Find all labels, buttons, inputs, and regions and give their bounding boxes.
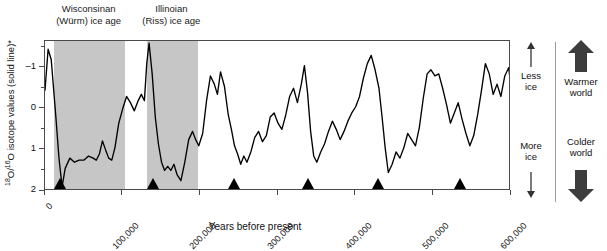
- era-label-illinoian: Illinoian (Riss) ice age: [111, 3, 231, 27]
- y-tick-minor: [41, 87, 45, 88]
- x-tick: [432, 190, 433, 195]
- glacial-maximum-marker: [372, 178, 384, 189]
- warmer-world-line1: Warmer: [551, 76, 607, 87]
- y-tick-major: [39, 66, 44, 67]
- more-ice-line2: ice: [512, 151, 550, 162]
- era-label-line2: (Riss) ice age: [111, 15, 231, 27]
- glacial-maximum-marker: [302, 178, 314, 189]
- less-ice-label: Less ice: [512, 70, 550, 92]
- y-tick-minor: [41, 46, 45, 47]
- y-axis-label-mid: O/: [5, 168, 16, 178]
- colder-world-line2: world: [551, 147, 607, 158]
- colder-world-label: Colder world: [551, 136, 607, 158]
- x-tick: [354, 190, 355, 195]
- y-tick-label: 2: [14, 184, 36, 194]
- y-axis-label-sup-16: 16: [4, 160, 11, 168]
- annotation-divider: [555, 42, 556, 202]
- x-tick-label: 0: [44, 201, 55, 212]
- glacial-maximum-marker: [228, 178, 240, 189]
- y-tick-minor: [41, 128, 45, 129]
- y-tick-major: [39, 107, 44, 108]
- glacial-maximum-marker: [454, 178, 466, 189]
- warmer-world-line2: world: [551, 87, 607, 98]
- x-tick: [277, 190, 278, 195]
- plot-area: [44, 40, 510, 190]
- glacial-maximum-marker: [54, 178, 66, 189]
- glacial-maximum-marker: [147, 178, 159, 189]
- less-ice-line1: Less: [512, 70, 550, 81]
- more-ice-arrow-icon: [524, 172, 538, 198]
- y-tick-minor: [41, 169, 45, 170]
- x-tick: [510, 190, 511, 195]
- y-tick-label: 1: [14, 143, 36, 153]
- y-tick-label: –1: [14, 61, 36, 71]
- era-label-line1: Illinoian: [111, 3, 231, 15]
- x-tick: [199, 190, 200, 195]
- colder-world-arrow-icon: [568, 170, 594, 202]
- x-axis-label: Years before present: [0, 221, 510, 232]
- y-tick-major: [39, 148, 44, 149]
- less-ice-arrow-icon: [524, 42, 538, 68]
- warmer-world-arrow-icon: [568, 40, 594, 72]
- y-axis-label-sup-18: 18: [4, 178, 11, 186]
- x-tick: [121, 190, 122, 195]
- plot-inner: [45, 41, 509, 189]
- more-ice-line1: More: [512, 140, 550, 151]
- warmer-world-label: Warmer world: [551, 76, 607, 98]
- isotope-curve: [45, 41, 509, 189]
- x-tick: [44, 190, 45, 195]
- more-ice-label: More ice: [512, 140, 550, 162]
- y-tick-label: 0: [14, 102, 36, 112]
- colder-world-line1: Colder: [551, 136, 607, 147]
- less-ice-line2: ice: [512, 81, 550, 92]
- isotope-curve-path: [45, 43, 509, 187]
